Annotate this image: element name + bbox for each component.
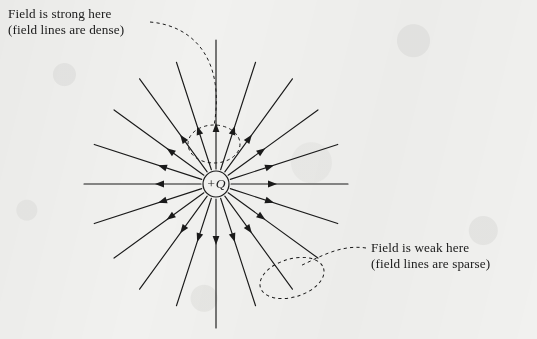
annotation-field-strong: Field is strong here (field lines are de… (8, 6, 124, 39)
field-line-arrowhead (264, 165, 274, 171)
field-line-arrowhead (244, 224, 252, 233)
field-line-arrowhead (213, 123, 220, 132)
field-line-arrowhead (180, 135, 188, 144)
field-line-arrowhead (197, 126, 203, 136)
field-line-arrowhead (167, 148, 176, 156)
field-line-arrowhead (167, 212, 176, 220)
field-line-arrowhead (264, 197, 274, 203)
field-line-arrowhead (158, 165, 168, 171)
field-line-arrowhead (244, 135, 252, 144)
figure-canvas: +Q Field is strong here (field lines are… (0, 0, 537, 339)
annotation-field-weak: Field is weak here (field lines are spar… (371, 240, 490, 273)
annotation-weak-line-2: (field lines are sparse) (371, 256, 490, 272)
charge-label: +Q (207, 176, 226, 191)
field-line-arrowhead (256, 148, 265, 156)
leader-line-strong (150, 22, 216, 126)
annotation-weak-line-1: Field is weak here (371, 240, 490, 256)
field-line-arrowhead (197, 232, 203, 242)
field-line-arrowhead (268, 181, 277, 188)
field-line-arrowhead (256, 212, 265, 220)
leader-line-weak (300, 247, 366, 266)
field-line-arrowhead (180, 224, 188, 233)
field-line-arrowhead (155, 181, 164, 188)
field-line-arrowhead (158, 197, 168, 203)
electric-field-diagram: +Q (0, 0, 537, 339)
field-line-arrowhead (229, 126, 235, 136)
field-line-arrowhead (213, 236, 220, 245)
annotation-strong-line-1: Field is strong here (8, 6, 124, 22)
field-line-arrowhead (229, 232, 235, 242)
annotation-strong-line-2: (field lines are dense) (8, 22, 124, 38)
